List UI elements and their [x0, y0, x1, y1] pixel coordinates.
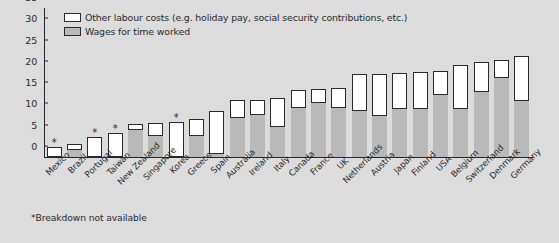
chart-legend: Other labour costs (e.g. holiday pay, so…: [64, 12, 407, 40]
y-tick-label: 30: [25, 13, 44, 24]
bar-column: *: [410, 8, 430, 157]
x-label-column: New Zealand: [125, 158, 145, 218]
x-axis-labels: MexicoBrazilPortugalTaiwanNew ZealandSin…: [44, 158, 532, 218]
legend-item-wages: Wages for time worked: [64, 26, 407, 37]
x-label-column: Portugal: [85, 158, 105, 218]
bar-segment-wages: [352, 110, 367, 157]
legend-swatch-other-icon: [64, 13, 81, 22]
y-tick-label: 15: [25, 77, 44, 88]
bar-spain: *: [209, 111, 224, 157]
x-label-column: Ireland: [247, 158, 267, 218]
bar-segment-wages: [311, 102, 326, 157]
bar-column: *: [471, 8, 491, 157]
bar-segment-wages: [474, 91, 489, 157]
y-tick-label: 10: [25, 98, 44, 109]
y-tick-label: 35: [25, 0, 44, 3]
bar-usa: *: [433, 71, 448, 157]
bar-germany: *: [514, 56, 529, 157]
bar-column: *: [512, 8, 532, 157]
bar-belgium: *: [453, 65, 468, 157]
y-tick-label: 0: [31, 141, 44, 152]
breakdown-unavailable-asterisk: *: [92, 128, 97, 138]
bar-segment-wages: [331, 107, 346, 157]
bar-denmark: *: [494, 60, 509, 157]
bar-column: *: [451, 8, 471, 157]
legend-label-other: Other labour costs (e.g. holiday pay, so…: [85, 12, 407, 23]
bar-segment-wages: [453, 108, 468, 157]
x-label-column: Greece: [186, 158, 206, 218]
x-label-column: Brazil: [64, 158, 84, 218]
bar-uk: *: [331, 88, 346, 157]
bar-new-zealand: *: [128, 124, 143, 157]
x-label-column: Spain: [207, 158, 227, 218]
bar-canada: *: [291, 90, 306, 157]
bar-italy: *: [270, 98, 285, 157]
bar-segment-wages: [392, 108, 407, 157]
x-label-column: Denmark: [491, 158, 511, 218]
bar-column: *: [491, 8, 511, 157]
x-label-column: Taiwan: [105, 158, 125, 218]
bar-segment-wages: [230, 117, 245, 157]
x-label-column: Australia: [227, 158, 247, 218]
bar-segment-wages: [291, 107, 306, 157]
bar-segment-wages: [270, 126, 285, 157]
x-label-column: Austria: [369, 158, 389, 218]
bar-column: *: [430, 8, 450, 157]
x-label-column: Canada: [288, 158, 308, 218]
x-label-column: USA: [430, 158, 450, 218]
x-label-column: Switzerland: [471, 158, 491, 218]
bar-france: *: [311, 89, 326, 157]
x-label-column: Belgium: [451, 158, 471, 218]
breakdown-unavailable-asterisk: *: [174, 113, 179, 123]
y-tick-label: 20: [25, 55, 44, 66]
bar-segment-wages: [413, 108, 428, 157]
breakdown-unavailable-asterisk: *: [113, 124, 118, 134]
x-label-column: Korea: [166, 158, 186, 218]
x-label-column: France: [308, 158, 328, 218]
legend-item-other-labour-costs: Other labour costs (e.g. holiday pay, so…: [64, 12, 407, 23]
bar-finland: *: [413, 72, 428, 157]
legend-swatch-wages-icon: [64, 27, 81, 36]
bar-australia: *: [230, 100, 245, 157]
chart-footnote: *Breakdown not available: [31, 212, 147, 223]
x-label-column: Singapore: [146, 158, 166, 218]
bar-greece: *: [189, 119, 204, 157]
bar-netherlands: *: [352, 74, 367, 157]
y-tick-label: 25: [25, 34, 44, 45]
bar-japan: *: [392, 73, 407, 157]
x-label-column: Finland: [410, 158, 430, 218]
legend-label-wages: Wages for time worked: [85, 26, 190, 37]
x-label-column: Japan: [390, 158, 410, 218]
x-label-column: Netherlands: [349, 158, 369, 218]
x-label-column: Mexico: [44, 158, 64, 218]
bar-column: *: [44, 8, 64, 157]
x-tick-label: UK: [335, 156, 350, 171]
labour-cost-bar-chart: 05101520253035 ************************ …: [0, 0, 559, 243]
x-label-column: Italy: [268, 158, 288, 218]
y-tick-label: 5: [31, 119, 44, 130]
x-label-column: UK: [329, 158, 349, 218]
x-label-column: Germany: [512, 158, 532, 218]
bar-switzerland: *: [474, 62, 489, 157]
bar-segment-wages: [433, 94, 448, 157]
breakdown-unavailable-asterisk: *: [52, 138, 57, 148]
